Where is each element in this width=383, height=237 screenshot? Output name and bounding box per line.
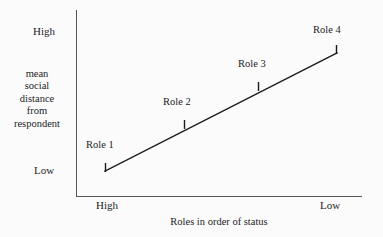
y-axis-title-line-5: respondent (2, 118, 72, 130)
y-axis-title-line-3: distance (2, 93, 72, 105)
data-point-label-role-1: Role 1 (86, 139, 114, 150)
y-axis-low-tick-label: Low (18, 164, 70, 177)
y-axis-title: mean social distance from respondent (2, 68, 72, 130)
x-axis-high-tick-label: High (85, 199, 129, 212)
data-point-label-role-4: Role 4 (313, 24, 341, 35)
data-point-label-role-3: Role 3 (238, 58, 266, 69)
x-axis-title: Roles in order of status (76, 216, 362, 228)
chart-figure: High Low mean social distance from respo… (0, 0, 383, 237)
data-point-label-role-2: Role 2 (163, 96, 191, 107)
x-axis-low-tick-label: Low (308, 199, 352, 212)
trend-line (105, 53, 337, 171)
y-axis-title-line-1: mean (2, 68, 72, 80)
y-axis-high-tick-label: High (18, 25, 70, 38)
y-axis-title-line-4: from (2, 105, 72, 117)
y-axis-title-line-2: social (2, 80, 72, 92)
